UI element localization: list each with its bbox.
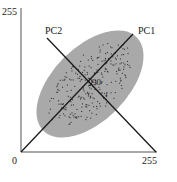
pca-diagram: 255 0 255 PC1 PC2 90	[0, 0, 177, 182]
data-point	[70, 101, 71, 102]
data-point	[83, 98, 84, 99]
data-point	[116, 73, 117, 74]
data-point	[91, 67, 92, 68]
data-point	[120, 63, 121, 64]
data-point	[106, 95, 107, 96]
data-point	[91, 58, 92, 59]
data-point	[120, 78, 121, 79]
data-point	[97, 108, 98, 109]
data-point	[111, 92, 112, 93]
data-point	[91, 113, 92, 114]
data-point	[107, 43, 108, 44]
data-point	[69, 116, 70, 117]
data-point	[91, 88, 92, 89]
data-point	[51, 98, 52, 99]
data-point	[101, 72, 102, 73]
data-point	[89, 66, 90, 67]
data-point	[129, 65, 130, 66]
data-point	[105, 53, 106, 54]
data-point	[77, 78, 78, 79]
data-point	[116, 59, 117, 60]
data-point	[128, 53, 129, 54]
data-point	[89, 105, 90, 106]
data-point	[67, 85, 68, 86]
data-point	[101, 82, 102, 83]
data-point	[85, 119, 86, 120]
data-point	[86, 107, 87, 108]
data-point	[116, 71, 117, 72]
data-point	[77, 109, 78, 110]
data-point	[97, 101, 98, 102]
data-point	[99, 89, 100, 90]
data-point	[70, 79, 71, 80]
data-point	[92, 93, 93, 94]
data-point	[81, 79, 82, 80]
data-point	[124, 49, 125, 50]
data-point	[130, 67, 131, 68]
data-point	[107, 84, 108, 85]
x-axis-max-label: 255	[142, 155, 157, 166]
data-point	[84, 99, 85, 100]
data-point	[118, 45, 119, 46]
data-point	[57, 89, 58, 90]
data-point	[104, 71, 105, 72]
data-point	[67, 91, 68, 92]
data-point	[59, 115, 60, 116]
data-point	[87, 74, 88, 75]
data-point	[58, 100, 59, 101]
data-point	[49, 113, 50, 114]
data-point	[87, 92, 88, 93]
data-point	[79, 96, 80, 97]
data-point	[87, 72, 88, 73]
data-point	[85, 106, 86, 107]
data-point	[84, 70, 85, 71]
data-point	[60, 103, 61, 104]
data-point	[113, 65, 114, 66]
data-point	[101, 74, 102, 75]
data-point	[84, 91, 85, 92]
data-point	[122, 73, 123, 74]
data-point	[71, 112, 72, 113]
data-point	[57, 85, 58, 86]
data-point	[89, 110, 90, 111]
data-point	[53, 98, 54, 99]
data-point	[123, 63, 124, 64]
data-point	[116, 63, 117, 64]
data-point	[125, 77, 126, 78]
data-point	[92, 60, 93, 61]
data-point	[96, 106, 97, 107]
data-point	[62, 104, 63, 105]
data-point	[104, 93, 105, 94]
data-point	[69, 123, 70, 124]
data-point	[72, 99, 73, 100]
data-point	[127, 64, 128, 65]
data-point	[70, 122, 71, 123]
data-point	[99, 46, 100, 47]
data-point	[62, 80, 63, 81]
data-point	[73, 115, 74, 116]
data-point	[97, 57, 98, 58]
data-point	[65, 76, 66, 77]
data-point	[105, 59, 106, 60]
data-point	[81, 97, 82, 98]
data-point	[75, 73, 76, 74]
data-point	[106, 93, 107, 94]
data-point	[106, 102, 107, 103]
data-point	[85, 93, 86, 94]
data-point	[103, 44, 104, 45]
data-point	[70, 114, 71, 115]
data-point	[58, 104, 59, 105]
data-point	[97, 70, 98, 71]
data-point	[118, 69, 119, 70]
data-point	[80, 81, 81, 82]
data-point	[110, 63, 111, 64]
data-point	[80, 61, 81, 62]
data-point	[80, 99, 81, 100]
data-point	[107, 71, 108, 72]
data-point	[100, 106, 101, 107]
data-point	[50, 109, 51, 110]
data-point	[124, 64, 125, 65]
data-point	[84, 66, 85, 67]
data-point	[96, 114, 97, 115]
data-point	[110, 60, 111, 61]
